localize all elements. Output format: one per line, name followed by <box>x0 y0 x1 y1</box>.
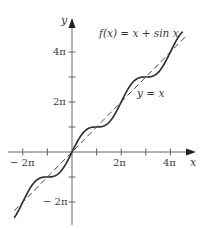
y-tick-label-2pi: 2π <box>53 97 66 107</box>
x-tick-label-4pi: 4π <box>163 158 176 168</box>
x-tick-label-neg-2pi: − 2π <box>10 158 35 168</box>
y-axis-arrow-icon <box>69 18 76 28</box>
curve-label-text: f(x) = x + sin x <box>99 27 179 39</box>
x-axis-arrow-icon <box>186 149 196 156</box>
y-tick-label-4pi: 4π <box>53 47 66 57</box>
line-y-equals-x <box>14 37 185 211</box>
curve-x-plus-sinx <box>14 32 183 218</box>
chart: y x f(x) = x + sin x y = x − 2π 2π 4π 4π… <box>0 0 208 229</box>
x-tick-label-2pi: 2π <box>113 158 126 168</box>
y-axis-label: y <box>61 15 67 26</box>
curve-label: f(x) = x + sin x <box>99 28 179 39</box>
y-tick-label-neg-2pi: − 2π <box>43 197 68 207</box>
line-label: y = x <box>137 88 164 99</box>
x-axis-label: x <box>190 157 196 168</box>
